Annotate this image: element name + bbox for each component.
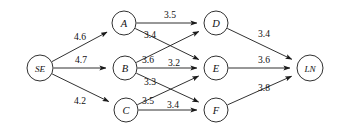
node-a[interactable]: A	[112, 11, 136, 35]
edge-weight-b-e: 3.2	[168, 57, 180, 68]
edge-weight-e-ln: 3.6	[258, 54, 270, 65]
node-label-se: SE	[35, 64, 46, 74]
edge-weight-c-e: 3.5	[142, 95, 154, 106]
edge-weight-b-d: 3.6	[142, 54, 154, 65]
edge-weight-b-f: 3.3	[144, 76, 156, 87]
edge-labels-layer: 4.64.74.23.53.43.63.23.33.53.43.43.63.8	[74, 9, 270, 110]
network-diagram-svg: SEABCDEFLN 4.64.74.23.53.43.63.23.33.53.…	[0, 0, 340, 133]
node-label-e: E	[212, 63, 220, 74]
node-f[interactable]: F	[204, 98, 228, 122]
edge-weight-a-d: 3.5	[164, 9, 176, 20]
node-label-d: D	[211, 18, 220, 29]
node-d[interactable]: D	[204, 11, 228, 35]
node-label-c: C	[122, 105, 130, 116]
node-label-ln: LN	[303, 64, 316, 74]
node-label-f: F	[212, 105, 220, 116]
node-ln[interactable]: LN	[297, 55, 323, 81]
node-label-a: A	[120, 18, 128, 29]
node-b[interactable]: B	[113, 56, 137, 80]
network-diagram-canvas: SEABCDEFLN 4.64.74.23.53.43.63.23.33.53.…	[0, 0, 340, 133]
edge-weight-a-e: 3.4	[144, 29, 156, 40]
edge-weight-f-ln: 3.8	[258, 82, 270, 93]
edge-weight-d-ln: 3.4	[258, 28, 270, 39]
node-c[interactable]: C	[114, 98, 138, 122]
node-e[interactable]: E	[204, 56, 228, 80]
edge-weight-se-b: 4.7	[75, 54, 87, 65]
node-se[interactable]: SE	[27, 55, 53, 81]
edge-weight-se-c: 4.2	[74, 95, 86, 106]
node-label-b: B	[122, 63, 129, 74]
edge-weight-se-a: 4.6	[74, 31, 86, 42]
edge-weight-c-f: 3.4	[167, 99, 179, 110]
